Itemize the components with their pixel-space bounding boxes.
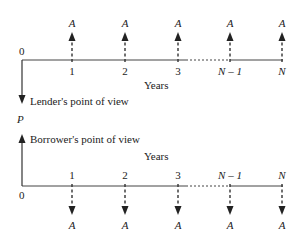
lender-flow-label: A bbox=[227, 18, 234, 29]
borrower-tick-label: N – 1 bbox=[218, 170, 242, 181]
lender-timeline bbox=[19, 32, 286, 104]
lender-origin-label: 0 bbox=[19, 46, 25, 57]
borrower-tick-label: 2 bbox=[122, 170, 128, 181]
borrower-tick-label: 3 bbox=[175, 170, 181, 181]
lender-axis-label: Years bbox=[144, 80, 169, 91]
lender-tick-label: 3 bbox=[175, 66, 181, 77]
lender-tick-label: N bbox=[278, 66, 285, 77]
borrower-flow-label: A bbox=[175, 220, 182, 231]
cash-flow-diagram bbox=[0, 0, 301, 236]
borrower-flow-label: A bbox=[69, 220, 76, 231]
lender-flow-label: A bbox=[279, 18, 286, 29]
lender-flow-label: A bbox=[122, 18, 129, 29]
present-value-down-arrow-icon bbox=[19, 95, 26, 104]
borrower-axis-label: Years bbox=[144, 151, 169, 162]
lender-tick-label: N – 1 bbox=[218, 66, 242, 77]
lender-caption: Lender's point of view bbox=[30, 96, 129, 107]
borrower-tick-label: N bbox=[278, 170, 285, 181]
lender-tick-label: 2 bbox=[122, 66, 128, 77]
lender-flow-label: A bbox=[69, 18, 76, 29]
borrower-timeline bbox=[19, 134, 286, 215]
lender-tick-label: 1 bbox=[69, 66, 75, 77]
borrower-flow-label: A bbox=[227, 220, 234, 231]
borrower-flow-label: A bbox=[122, 220, 129, 231]
borrower-tick-label: 1 bbox=[69, 170, 75, 181]
borrower-origin-label: 0 bbox=[19, 190, 25, 201]
lender-flow-label: A bbox=[175, 18, 182, 29]
present-value-up-arrow-icon bbox=[19, 134, 26, 143]
borrower-flow-label: A bbox=[279, 220, 286, 231]
present-value-label: P bbox=[17, 114, 24, 125]
borrower-caption: Borrower's point of view bbox=[30, 134, 140, 145]
